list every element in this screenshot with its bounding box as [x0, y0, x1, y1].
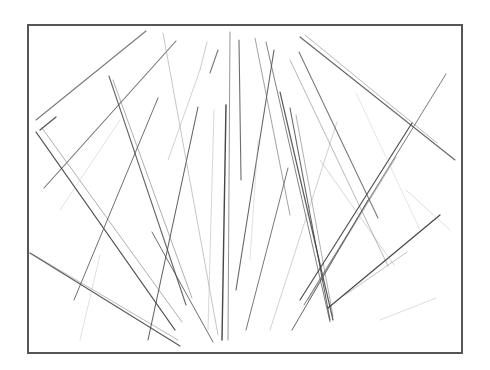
drawing-canvas: [0, 0, 490, 370]
line-drawing: [0, 0, 490, 370]
